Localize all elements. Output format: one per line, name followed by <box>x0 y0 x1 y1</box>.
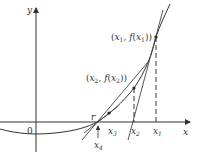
coord-label-x1-fx1: (x1, f(x1)) <box>111 32 152 43</box>
tangent-line-x1 <box>128 10 163 140</box>
y-axis-label: y <box>26 5 33 15</box>
point-x1-fx1 <box>154 35 157 38</box>
x2-label: x2 <box>131 126 140 137</box>
point-x3-fx3 <box>107 111 110 114</box>
root-label: r <box>91 112 96 122</box>
x4-label: x4 <box>94 140 103 151</box>
newton-method-diagram: y x 0 r x1 x2 x3 x4 (x1, f(x1)) (x2, f(x… <box>0 0 201 158</box>
function-curve <box>0 4 170 134</box>
coord-label-x2-fx2: (x2, f(x2)) <box>86 73 127 84</box>
origin-label: 0 <box>27 126 33 136</box>
x3-label: x3 <box>108 126 117 137</box>
x1-label: x1 <box>153 126 162 137</box>
x-axis-label: x <box>183 127 188 137</box>
point-x2-fx2 <box>132 86 135 89</box>
